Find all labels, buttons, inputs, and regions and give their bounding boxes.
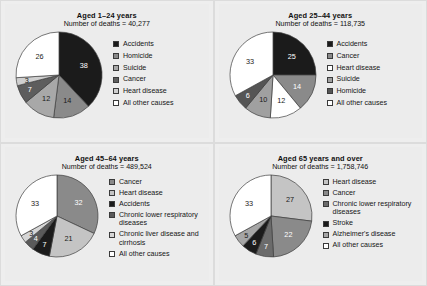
legend-swatch-icon xyxy=(113,88,119,94)
legend-item[interactable]: Heart disease xyxy=(113,87,206,95)
legend-item[interactable]: Heart disease xyxy=(109,189,206,197)
pie-slice-value: 7 xyxy=(264,243,268,252)
legend-label: Suicide xyxy=(337,75,360,83)
pie-slice-value: 27 xyxy=(286,195,294,204)
legend-item[interactable]: Cancer xyxy=(327,52,420,60)
pie-slice-value: 7 xyxy=(43,240,47,249)
panel-body: 322174333CancerHeart diseaseAccidentsChr… xyxy=(5,174,209,260)
pie-container: 322174333 xyxy=(5,174,109,258)
legend-item[interactable]: Homicide xyxy=(113,52,206,60)
legend-item[interactable]: Suicide xyxy=(327,75,420,83)
pie-chart-grid: Aged 1–24 yearsNumber of deaths = 40,277… xyxy=(0,0,427,286)
panel-subtitle: Number of deaths = 489,524 xyxy=(5,164,209,172)
pie-container: 3814127326 xyxy=(5,31,113,119)
legend-item[interactable]: All other causes xyxy=(109,250,206,258)
pie-slice-value: 5 xyxy=(244,231,248,240)
pie-slice-value: 21 xyxy=(64,234,72,243)
panel-aged-45-64: Aged 45–64 yearsNumber of deaths = 489,5… xyxy=(0,143,214,286)
panel-body: 3814127326AccidentsHomicideSuicideCancer… xyxy=(5,31,209,119)
legend-swatch-icon xyxy=(323,201,329,207)
legend-item[interactable]: Cancer xyxy=(323,189,420,197)
pie-slice-value: 14 xyxy=(293,82,301,91)
legend-item[interactable]: Heart disease xyxy=(327,64,420,72)
legend-label: Homicide xyxy=(337,87,367,95)
panel-inner: Aged 25–44 yearsNumber of deaths = 118,7… xyxy=(219,4,423,138)
legend: AccidentsCancerHeart diseaseSuicideHomic… xyxy=(327,31,423,111)
legend-swatch-icon xyxy=(323,190,329,196)
legend-label: All other causes xyxy=(337,99,387,107)
pie-slice-value: 25 xyxy=(287,52,295,61)
legend-swatch-icon xyxy=(113,65,119,71)
legend-item[interactable]: Accidents xyxy=(109,200,206,208)
legend-swatch-icon xyxy=(109,232,115,238)
pie-slice-value: 38 xyxy=(80,61,88,70)
legend-item[interactable]: Homicide xyxy=(327,87,420,95)
legend-label: Stroke xyxy=(333,219,354,227)
legend-item[interactable]: Cancer xyxy=(109,178,206,186)
panel-header: Aged 65 years and overNumber of deaths =… xyxy=(219,147,423,172)
pie-slice-value: 33 xyxy=(245,199,253,208)
legend-label: Accidents xyxy=(123,40,154,48)
panel-body: 272276533Heart diseaseCancerChronic lowe… xyxy=(219,174,423,258)
legend-swatch-icon xyxy=(109,201,115,207)
pie-slice-value: 6 xyxy=(252,238,256,247)
legend-item[interactable]: Stroke xyxy=(323,219,420,227)
legend-swatch-icon xyxy=(113,77,119,83)
legend-label: Accidents xyxy=(119,200,150,208)
legend-label: Cancer xyxy=(333,189,356,197)
legend-item[interactable]: All other causes xyxy=(113,99,206,107)
pie-slice-value: 33 xyxy=(245,57,253,66)
pie-svg: 25141210633 xyxy=(229,31,317,119)
pie-svg: 322174333 xyxy=(15,174,99,258)
panel-title: Aged 45–64 years xyxy=(5,155,209,163)
legend-item[interactable]: Cancer xyxy=(113,75,206,83)
legend-swatch-icon xyxy=(323,221,329,227)
legend-item[interactable]: All other causes xyxy=(327,99,420,107)
legend-item[interactable]: Accidents xyxy=(327,40,420,48)
panel-body: 25141210633AccidentsCancerHeart diseaseS… xyxy=(219,31,423,119)
legend-swatch-icon xyxy=(323,243,329,249)
pie-container: 25141210633 xyxy=(219,31,327,119)
legend-item[interactable]: Suicide xyxy=(113,64,206,72)
panel-inner: Aged 1–24 yearsNumber of deaths = 40,277… xyxy=(5,4,209,138)
panel-subtitle: Number of deaths = 1,758,746 xyxy=(219,164,423,172)
legend-label: All other causes xyxy=(333,241,383,249)
legend-label: All other causes xyxy=(119,250,169,258)
legend-swatch-icon xyxy=(327,53,333,59)
pie-slice-value: 3 xyxy=(29,229,33,238)
legend-swatch-icon xyxy=(113,41,119,47)
legend: CancerHeart diseaseAccidentsChronic lowe… xyxy=(109,174,209,260)
legend-swatch-icon xyxy=(327,77,333,83)
legend-item[interactable]: Chronic lower respiratory diseases xyxy=(109,211,206,228)
legend-swatch-icon xyxy=(327,88,333,94)
panel-title: Aged 65 years and over xyxy=(219,155,423,163)
pie-slice-value: 26 xyxy=(36,53,44,62)
legend-label: Cancer xyxy=(123,75,146,83)
legend-item[interactable]: Accidents xyxy=(113,40,206,48)
legend-label: Suicide xyxy=(123,64,146,72)
legend-label: Heart disease xyxy=(337,64,381,72)
pie-slice-value: 7 xyxy=(28,86,32,95)
panel-inner: Aged 45–64 yearsNumber of deaths = 489,5… xyxy=(5,147,209,281)
legend: AccidentsHomicideSuicideCancerHeart dise… xyxy=(113,31,209,111)
legend-label: Chronic lower respiratory diseases xyxy=(119,211,206,228)
legend-label: Chronic lower respiratory diseases xyxy=(333,200,420,217)
legend: Heart diseaseCancerChronic lower respira… xyxy=(323,174,423,252)
legend-label: Accidents xyxy=(337,40,368,48)
pie-slice-value: 14 xyxy=(63,96,71,105)
pie-svg: 3814127326 xyxy=(15,31,103,119)
legend-label: Heart disease xyxy=(123,87,167,95)
legend-swatch-icon xyxy=(323,179,329,185)
legend-swatch-icon xyxy=(109,179,115,185)
legend-item[interactable]: Chronic lower respiratory diseases xyxy=(323,200,420,217)
legend-item[interactable]: Heart disease xyxy=(323,178,420,186)
legend-item[interactable]: All other causes xyxy=(323,241,420,249)
legend-swatch-icon xyxy=(109,251,115,257)
legend-item[interactable]: Alzheimer's disease xyxy=(323,230,420,238)
legend-label: Heart disease xyxy=(119,189,163,197)
panel-header: Aged 25–44 yearsNumber of deaths = 118,7… xyxy=(219,4,423,29)
panel-aged-1-24: Aged 1–24 yearsNumber of deaths = 40,277… xyxy=(0,0,214,143)
pie-slice-value: 12 xyxy=(277,96,285,105)
legend-swatch-icon xyxy=(109,212,115,218)
legend-item[interactable]: Chronic liver disease and cirrhosis xyxy=(109,230,206,247)
